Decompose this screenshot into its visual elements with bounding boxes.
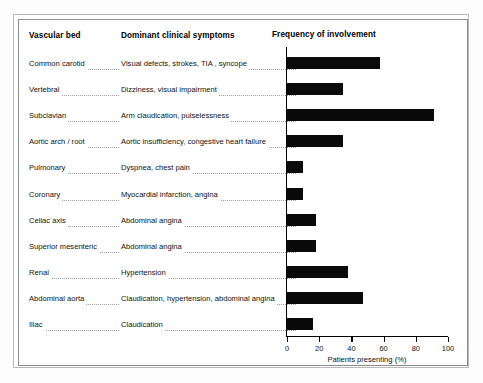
x-tick xyxy=(319,337,320,342)
x-axis-line xyxy=(286,336,448,337)
bar xyxy=(287,83,343,95)
bar xyxy=(287,240,316,252)
x-axis-label: Patients presenting (%) xyxy=(286,355,448,364)
bar xyxy=(287,214,316,226)
bar xyxy=(287,161,303,173)
x-tick-label: 100 xyxy=(438,344,458,353)
bar xyxy=(287,57,380,69)
bar xyxy=(287,318,313,330)
bar xyxy=(287,292,363,304)
bar xyxy=(287,266,348,278)
x-tick-label: 20 xyxy=(309,344,329,353)
figure-content: Vascular bed Dominant clinical symptoms … xyxy=(18,19,468,366)
x-tick-label: 40 xyxy=(341,344,361,353)
x-tick xyxy=(416,337,417,342)
x-tick xyxy=(448,337,449,342)
bar xyxy=(287,135,343,147)
bar xyxy=(287,109,434,121)
x-tick-label: 80 xyxy=(406,344,426,353)
figure-root: Vascular bed Dominant clinical symptoms … xyxy=(0,0,483,383)
x-tick-label: 0 xyxy=(277,344,297,353)
bar-chart: 020406080100 Patients presenting (%) xyxy=(18,19,468,366)
x-tick xyxy=(287,337,288,342)
x-tick xyxy=(384,337,385,342)
x-tick xyxy=(351,337,352,342)
x-tick-label: 60 xyxy=(374,344,394,353)
bar xyxy=(287,188,303,200)
